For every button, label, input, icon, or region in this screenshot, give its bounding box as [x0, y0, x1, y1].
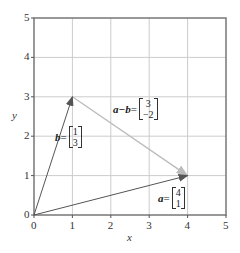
x-tick-label: 3 — [146, 220, 152, 231]
matrix-b: 1 3 — [69, 126, 82, 148]
x-tick-label: 0 — [31, 220, 37, 231]
x-tick-label: 1 — [69, 220, 75, 231]
a-component-2: 1 — [176, 198, 181, 209]
y-tick-label: 5 — [24, 12, 30, 23]
label-vector-a: a= 4 1 — [158, 187, 185, 209]
x-axis-label: x — [127, 232, 132, 243]
y-axis-label: y — [12, 110, 17, 121]
label-eq: = — [164, 192, 170, 204]
label-vector-b: b= 1 3 — [55, 126, 82, 148]
label-vector-a-minus-b: a−b= 3 −2 — [113, 98, 158, 120]
matrix-a-minus-b: 3 −2 — [139, 98, 158, 120]
b-component-2: 3 — [73, 137, 78, 148]
y-tick-label: 1 — [24, 170, 30, 181]
b-component-1: 1 — [73, 126, 78, 137]
x-tick-label: 4 — [185, 220, 191, 231]
y-tick-label: 2 — [24, 130, 30, 141]
y-tick-label: 3 — [24, 91, 30, 102]
amb-component-2: −2 — [143, 109, 154, 120]
y-tick-label: 4 — [24, 51, 30, 62]
matrix-a: 4 1 — [172, 187, 185, 209]
vector-b — [34, 97, 72, 215]
label-eq: = — [61, 131, 67, 143]
a-component-1: 4 — [176, 187, 181, 198]
x-tick-label: 2 — [108, 220, 114, 231]
x-tick-label: 5 — [223, 220, 229, 231]
amb-component-1: 3 — [146, 98, 151, 109]
y-tick-label: 0 — [24, 209, 30, 220]
label-eq: = — [131, 103, 137, 115]
vector-plot — [0, 0, 240, 253]
label-amb-name: a−b — [113, 103, 131, 115]
